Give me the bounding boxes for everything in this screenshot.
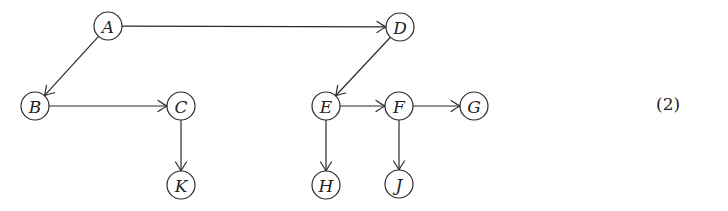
node-d: D [386,13,414,41]
edge-d-e [336,37,391,96]
node-label: A [100,17,114,37]
edge-line [336,37,391,96]
node-label: G [467,97,481,117]
node-label: F [392,97,406,117]
node-label: E [319,97,333,117]
node-c: C [167,92,195,120]
directed-graph: ABCKDEFGHJ [0,0,728,211]
node-b: B [21,92,49,120]
node-label: D [392,18,407,38]
node-label: K [174,176,189,196]
equation-number: (2) [656,94,680,114]
node-j: J [385,170,413,198]
edge-e-h [321,120,332,171]
edge-b-c [49,101,167,112]
edge-c-k [176,120,187,171]
node-h: H [312,171,340,199]
node-f: F [385,92,413,120]
edge-f-g [413,101,460,112]
edge-line [122,26,386,27]
node-k: K [167,171,195,199]
node-g: G [460,92,488,120]
node-e: E [312,92,340,120]
node-label: B [28,97,42,117]
node-label: H [318,176,335,196]
edge-line [44,36,98,95]
edge-a-d [122,21,386,32]
node-label: C [174,97,187,117]
edge-e-f [340,101,385,112]
edge-a-b [44,36,98,95]
node-a: A [94,12,122,40]
edge-f-j [394,120,405,170]
